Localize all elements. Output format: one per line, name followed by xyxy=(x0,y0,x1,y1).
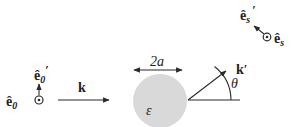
arrow-diagonal-icon xyxy=(188,71,226,100)
e0-prime-label: ê0′ xyxy=(34,62,49,85)
k-label: k xyxy=(78,80,86,95)
incident-polarization-e0-prime: ê0′ xyxy=(34,62,49,96)
diameter-indicator: 2a xyxy=(134,54,182,70)
e0-hat-label: ê0 xyxy=(6,94,17,111)
incident-wavevector: k xyxy=(58,80,109,100)
permittivity-label: ε xyxy=(146,103,152,118)
sphere xyxy=(133,74,187,127)
dot-in-circle-center xyxy=(266,36,269,39)
scattering-diagram: ê0 ê0′ k 2a ε θ k′ ês′ ês xyxy=(0,0,295,127)
scattered-wavevector: θ k′ xyxy=(188,61,247,100)
angle-arc xyxy=(215,67,232,101)
dot-in-circle-center xyxy=(38,99,41,102)
arrow-up-left-icon xyxy=(254,26,264,34)
es-prime-label: ês′ xyxy=(240,2,256,25)
scattered-polarization-es: ês xyxy=(263,31,284,48)
theta-label: θ xyxy=(231,76,238,91)
incident-polarization-e0: ê0 xyxy=(6,94,43,111)
es-label: ês xyxy=(274,31,284,48)
scattering-sphere: ε xyxy=(133,74,187,127)
diameter-label: 2a xyxy=(150,54,164,69)
k-prime-label: k′ xyxy=(236,61,247,77)
scattered-polarization-es-prime: ês′ xyxy=(240,2,264,34)
